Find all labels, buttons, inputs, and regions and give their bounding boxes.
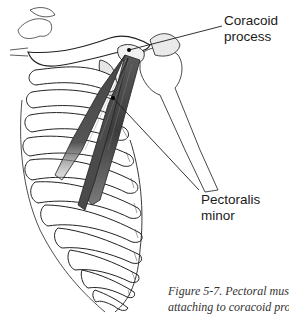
coracoid-label-line1: Coracoid — [224, 13, 278, 29]
coracoid-marker-dot — [127, 48, 131, 52]
caption-line2: attaching to coracoid process. — [168, 299, 289, 315]
figure-caption: Figure 5-7. Pectoral muscle attaching to… — [168, 283, 289, 315]
pectoralis-label-line2: minor — [201, 208, 260, 224]
pectoralis-marker-dot — [111, 96, 115, 100]
anatomy-figure: Coracoid process Pectoralis minor Figure… — [0, 0, 289, 321]
pectoralis-minor-illustration — [0, 0, 289, 321]
pectoralis-label-line1: Pectoralis — [201, 192, 260, 208]
pectoralis-minor-label: Pectoralis minor — [201, 192, 260, 224]
caption-line1: Figure 5-7. Pectoral muscle — [168, 283, 289, 299]
upper-vertebrae — [10, 8, 55, 56]
coracoid-process-label: Coracoid process — [224, 13, 278, 45]
coracoid-label-line2: process — [224, 29, 278, 45]
